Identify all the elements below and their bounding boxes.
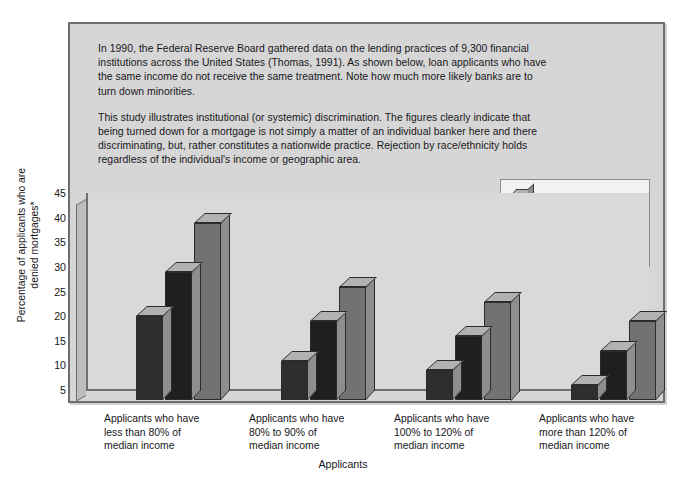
x-axis-category-label-line: median income	[249, 439, 389, 453]
x-axis-category-label: Applicants who havemore than 120% ofmedi…	[539, 412, 679, 453]
x-axis-category-label: Applicants who have80% to 90% ofmedian i…	[249, 412, 389, 453]
legend-label-african-american: African American	[542, 247, 621, 258]
legend-swatch-front-2	[511, 246, 528, 263]
legend-item-african-american: African American	[501, 239, 649, 265]
x-axis-category-label-line: 100% to 120% of	[394, 426, 534, 440]
y-axis-tick-label: 10	[42, 359, 66, 371]
x-axis-category-label-line: 80% to 90% of	[249, 426, 389, 440]
x-axis-title: Applicants	[0, 458, 686, 470]
legend-label-hispanic-american: Hispanic American	[542, 221, 628, 232]
x-axis-category-label-line: median income	[394, 439, 534, 453]
y-axis-tick-label: 45	[42, 187, 66, 199]
legend-swatch-front-1	[511, 220, 528, 237]
legend-item-white: White	[501, 187, 649, 213]
y-axis-tick-label: 20	[42, 310, 66, 322]
legend-item-hispanic-american: Hispanic American	[501, 213, 649, 239]
intro-text-block: In 1990, the Federal Reserve Board gathe…	[98, 42, 548, 180]
legend-swatch-cube-icon	[511, 215, 533, 237]
x-axis-category-label-line: Applicants who have	[539, 412, 679, 426]
legend-label-white: White	[542, 195, 569, 206]
x-axis-category-label-line: Applicants who have	[249, 412, 389, 426]
y-axis-tick-label: 15	[42, 335, 66, 347]
x-axis-category-label-line: Applicants who have	[104, 412, 244, 426]
x-axis-category-label-line: more than 120% of	[539, 426, 679, 440]
x-axis-category-label-line: Applicants who have	[394, 412, 534, 426]
x-axis-category-labels: Applicants who haveless than 80% ofmedia…	[76, 412, 676, 458]
chart-legend: White Hispanic American African American	[500, 179, 650, 267]
y-axis-ticks: 45403530252015105	[38, 193, 66, 390]
legend-swatch-cube-icon	[511, 241, 533, 263]
y-axis-title: Percentage of applicants who are denied …	[15, 155, 41, 335]
y-axis-tick-label: 25	[42, 286, 66, 298]
y-axis-tick-label: 30	[42, 261, 66, 273]
legend-swatch-front-0	[511, 194, 528, 211]
legend-swatch-cube-icon	[511, 189, 533, 211]
x-axis-category-label-line: median income	[539, 439, 679, 453]
x-axis-category-label-line: median income	[104, 439, 244, 453]
intro-paragraph-1: In 1990, the Federal Reserve Board gathe…	[98, 42, 548, 99]
x-axis-category-label: Applicants who have100% to 120% ofmedian…	[394, 412, 534, 453]
y-axis-tick-label: 5	[42, 384, 66, 396]
y-axis-tick-label: 40	[42, 212, 66, 224]
x-axis-category-label-line: less than 80% of	[104, 426, 244, 440]
x-axis-category-label: Applicants who haveless than 80% ofmedia…	[104, 412, 244, 453]
intro-paragraph-2: This study illustrates institutional (or…	[98, 111, 548, 168]
y-axis-tick-label: 35	[42, 236, 66, 248]
